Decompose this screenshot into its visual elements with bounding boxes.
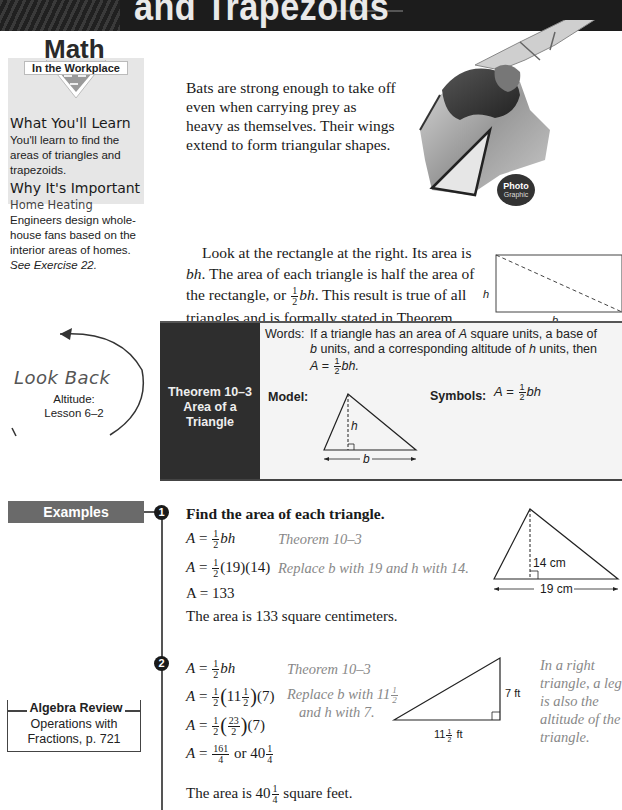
algebra-review-title: Algebra Review <box>26 701 126 715</box>
ex1-step-3: A = 133 <box>186 585 234 602</box>
why-important-text: Engineers design whole-house fans based … <box>10 213 142 273</box>
ex2-right-triangle-diagram <box>390 655 510 725</box>
theorem-title-line3: Triangle <box>160 415 260 430</box>
ex1-conclusion: The area is 133 square centimeters. <box>186 608 398 625</box>
words-label: Words: <box>265 327 304 341</box>
w3: units, and a corresponding altitude of <box>317 342 529 356</box>
wfbh: bh. <box>342 359 359 373</box>
rect-h-label: h <box>483 288 489 300</box>
badge-line2: Graphic <box>497 191 535 199</box>
fraction-one-half: 12 <box>291 286 298 307</box>
example-2-badge: 2 <box>154 656 169 671</box>
symbols-label: Symbols: <box>430 389 486 403</box>
ex1-step-2: A = 12(19)(14) <box>186 558 270 579</box>
ex2-height-label: 7 ft <box>505 687 520 699</box>
right-triangle-side-note: In a right triangle, a leg is also the a… <box>540 656 622 746</box>
ex2-step-1: A = 12bh <box>186 659 235 680</box>
math-logo-text: Math <box>44 36 105 62</box>
theorem-bottom-rule <box>160 479 622 481</box>
model-b-label: b <box>363 452 370 466</box>
ex1-note-2: Replace b with 19 and h with 14. <box>278 560 469 577</box>
para-bh-2: bh <box>299 286 315 303</box>
para-text-1: Look at the rectangle at the right. Its … <box>202 244 471 261</box>
alg-line2: Fractions, p. 721 <box>10 732 138 747</box>
look-back-reference[interactable]: Altitude: Lesson 6–2 <box>44 392 104 420</box>
w4: units, then <box>536 342 597 356</box>
math-workplace-label: In the Workplace <box>24 61 128 75</box>
why-important-subheading: Home Heating <box>10 198 93 212</box>
ex1-step-1: A = 12bh <box>186 529 235 550</box>
ex2-conclusion: The area is 4014 square feet. <box>186 784 352 805</box>
w2: square units, a base of <box>467 327 597 341</box>
wfeq: = <box>318 359 332 373</box>
words-fraction: 12 <box>334 357 341 376</box>
theorem-title-line1: Theorem 10–3 <box>160 385 260 400</box>
ex2-step-2: A = 12(1112)(7) <box>186 685 274 708</box>
exercise-reference-link[interactable]: See Exercise 22. <box>10 259 97 271</box>
example-1-heading: Find the area of each triangle. <box>186 505 385 523</box>
w1: If a triangle has an area of <box>310 327 459 341</box>
why-important-body: Engineers design whole-house fans based … <box>10 214 136 256</box>
para-bh: bh <box>186 265 202 282</box>
header-photo-strip <box>0 0 120 31</box>
ex1-height-label: 14 cm <box>533 556 566 570</box>
alg-rule-left <box>7 710 27 712</box>
ex2-base-label: 1112 ft <box>434 728 463 743</box>
intro-paragraph: Bats are strong enough to take off even … <box>186 78 396 154</box>
look-back-line2: Lesson 6–2 <box>44 406 104 420</box>
ex2-step-3: A = 12(232)(7) <box>186 714 265 737</box>
wb: b <box>310 342 317 356</box>
model-triangle-diagram <box>320 388 420 468</box>
theorem-title-line2: Area of a <box>160 400 260 415</box>
look-back-line1: Altitude: <box>44 392 104 406</box>
example-1-badge: 1 <box>154 505 169 520</box>
theorem-title: Theorem 10–3 Area of a Triangle <box>160 385 260 430</box>
theorem-words-text: If a triangle has an area of A square un… <box>310 327 620 376</box>
alg-rule-right <box>125 710 141 712</box>
model-h-label: h <box>351 419 358 433</box>
ex2-step-4: A = 1614 or 4014 <box>186 744 274 765</box>
what-youll-learn-heading: What You'll Learn <box>10 115 131 131</box>
symbols-formula: A = 12bh <box>494 383 541 402</box>
ex2-note-1: Theorem 10–3 <box>287 661 371 678</box>
alg-line1: Operations with <box>10 717 138 732</box>
seq: = <box>503 384 518 399</box>
algebra-review-reference[interactable]: Operations with Fractions, p. 721 <box>10 717 138 747</box>
frac-denominator: 2 <box>291 297 298 307</box>
why-important-heading: Why It's Important <box>10 180 140 196</box>
ex1-note-1: Theorem 10–3 <box>278 531 362 548</box>
ex2-note-2a: Replace b with 11 <box>287 686 390 702</box>
examples-tab: Examples <box>8 501 144 523</box>
sbh: bh <box>527 384 541 399</box>
ex2-note-2b: and h with 7. <box>287 705 399 720</box>
ex2-note-2: Replace b with 1112 and h with 7. <box>287 686 399 720</box>
look-back-title: Look Back <box>14 367 110 388</box>
photo-graphic-badge: Photo Graphic <box>497 174 535 206</box>
what-youll-learn-text: You'll learn to find the areas of triang… <box>10 133 140 178</box>
ex2-conc-pre: The area is 40 <box>186 785 271 801</box>
sA: A <box>494 384 503 399</box>
page-title: and Trapezoids <box>134 0 389 29</box>
ex2-conc-post: square feet. <box>280 785 353 801</box>
badge-line1: Photo <box>497 181 535 191</box>
model-label: Model: <box>268 390 308 404</box>
wh: h <box>529 342 536 356</box>
rectangle-diagram <box>480 253 622 328</box>
ex1-base-label: 19 cm <box>540 582 573 596</box>
wA: A <box>459 327 467 341</box>
